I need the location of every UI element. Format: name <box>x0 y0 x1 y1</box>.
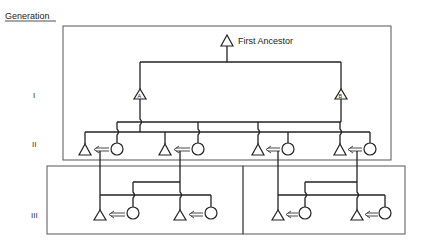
gen1-mark-b: B <box>339 93 343 99</box>
marriage-arrow-icon <box>174 146 190 153</box>
gen3-female-4-icon <box>379 207 391 219</box>
gen2-female-4-icon <box>364 143 376 155</box>
gen3-male-2-icon <box>174 210 186 220</box>
gen1-mark-a: A <box>138 93 142 99</box>
gen3-male-3-icon <box>272 210 284 220</box>
generation-label-2: II <box>32 140 36 149</box>
generation-heading: Generation <box>5 11 50 21</box>
gen2-male-4-icon <box>334 144 346 155</box>
marriage-arrow-icon <box>365 211 378 218</box>
marriage-arrow-icon <box>189 211 203 218</box>
marriage-arrow-icon <box>109 211 125 218</box>
gen3-male-4-icon <box>351 210 363 220</box>
generation-label-3: III <box>31 211 38 220</box>
gen2-male-3-icon <box>252 144 264 155</box>
gen2-male-2-icon <box>159 144 171 155</box>
gen3-female-1-icon <box>127 207 139 219</box>
gen2-female-2-icon <box>192 143 204 155</box>
first-ancestor-label: First Ancestor <box>238 36 293 46</box>
gen3-male-1-icon <box>94 210 106 220</box>
marriage-arrow-icon <box>94 146 109 153</box>
first-ancestor-triangle-icon <box>221 35 233 46</box>
gen2-male-1-icon <box>79 144 91 155</box>
kinship-diagram: Generation I II III First Ancestor A B <box>0 0 423 248</box>
lineage-box-b <box>243 166 405 234</box>
gen2-female-1-icon <box>111 143 123 155</box>
gen3-female-2-icon <box>205 207 217 219</box>
marriage-arrow-icon <box>286 211 298 218</box>
gen3-female-3-icon <box>299 207 311 219</box>
lineage-box-a <box>47 166 243 234</box>
generation-label-1: I <box>33 91 35 100</box>
gen2-female-3-icon <box>282 143 294 155</box>
marriage-arrow-icon <box>348 146 362 153</box>
